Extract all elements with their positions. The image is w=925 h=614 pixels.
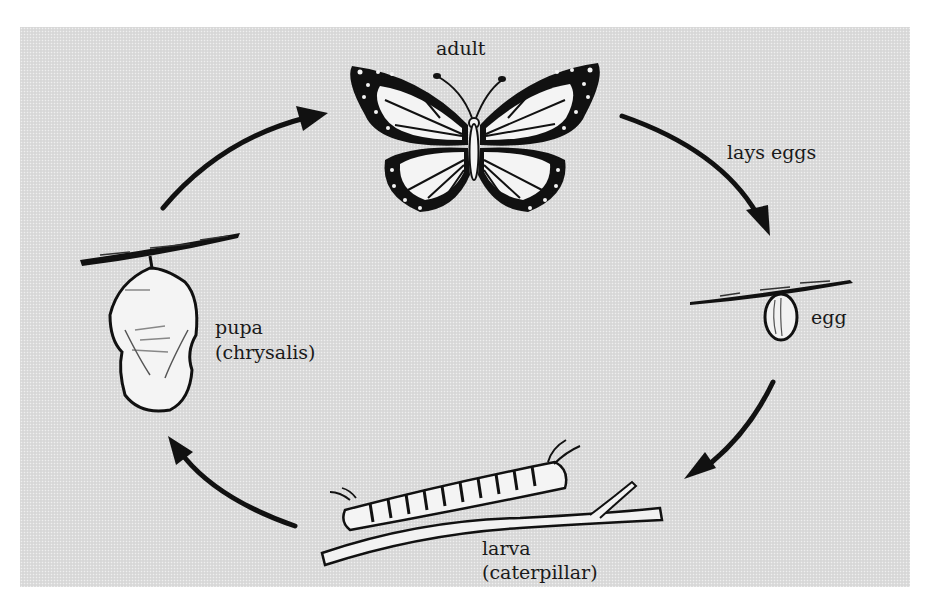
stage-sublabel-caterpillar: (caterpillar) — [482, 561, 598, 583]
stage-label-egg: egg — [811, 306, 847, 328]
butterfly-icon — [350, 63, 600, 212]
stage-label-larva: larva — [482, 537, 531, 559]
arrow-adult-to-egg-icon — [622, 116, 770, 236]
stage-sublabel-chrysalis: (chrysalis) — [215, 341, 316, 363]
life-cycle-artwork — [0, 0, 925, 614]
arrow-egg-to-larva-icon — [684, 382, 773, 479]
arrow-larva-to-pupa-icon — [168, 436, 295, 526]
transition-label-lays-eggs: lays eggs — [727, 141, 816, 163]
stage-label-adult: adult — [436, 37, 485, 59]
stage-label-pupa: pupa — [215, 316, 263, 338]
arrow-pupa-to-adult-icon — [163, 106, 328, 208]
